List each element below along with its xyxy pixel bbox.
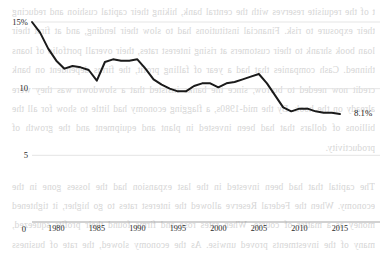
x-tick-label-1980: 1980 bbox=[36, 224, 76, 233]
end-value: 8.1% bbox=[354, 108, 372, 118]
data-series-line bbox=[32, 22, 340, 114]
gridlines-group bbox=[32, 22, 380, 155]
y-tick-label-10: 10 bbox=[0, 83, 28, 93]
x-tick-label-1995: 1995 bbox=[158, 224, 198, 233]
y-tick-label-0: 0 bbox=[6, 224, 26, 234]
x-tick-label-2005: 2005 bbox=[239, 224, 279, 233]
x-tick-label-2010: 2010 bbox=[279, 224, 319, 233]
x-tick-label-1990: 1990 bbox=[117, 224, 157, 233]
y-tick-label-5: 5 bbox=[0, 150, 28, 160]
y-tick-label-15: 15% bbox=[0, 17, 28, 27]
chart-plot-area bbox=[0, 0, 387, 255]
x-tick-label-1985: 1985 bbox=[77, 224, 117, 233]
line-chart-figure: t of the requisite reserves with the cen… bbox=[0, 0, 387, 255]
x-tick-label-2000: 2000 bbox=[198, 224, 238, 233]
x-tick-label-2015: 2015 bbox=[320, 224, 360, 233]
